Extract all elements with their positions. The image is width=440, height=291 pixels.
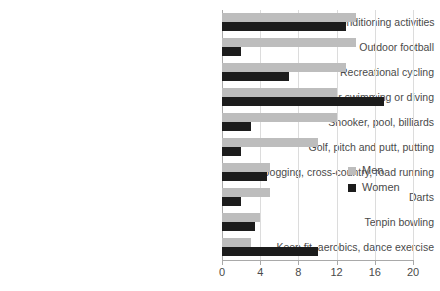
- bar-men: [222, 88, 337, 97]
- bar-row: [222, 210, 413, 235]
- bar-row: [222, 60, 413, 85]
- bar-row: [222, 235, 413, 260]
- bar-women: [222, 172, 267, 181]
- bar-men: [222, 238, 251, 247]
- bar-women: [222, 22, 346, 31]
- bar-men: [222, 63, 346, 72]
- legend-label: Women: [362, 181, 400, 194]
- plot-area: [222, 10, 413, 260]
- bar-row: [222, 110, 413, 135]
- bar-women: [222, 97, 384, 106]
- bar-row: [222, 10, 413, 35]
- bar-women: [222, 197, 241, 206]
- legend-swatch-icon: [348, 167, 356, 175]
- legend-swatch-icon: [348, 184, 356, 192]
- bar-row: [222, 135, 413, 160]
- bar-row: [222, 85, 413, 110]
- bar-chart: Health, fitness, gym or conditioning act…: [0, 0, 440, 291]
- bar-women: [222, 47, 241, 56]
- x-tick-mark-20: [413, 260, 414, 265]
- legend-label: Men: [362, 164, 383, 177]
- legend: MenWomen: [348, 163, 400, 197]
- x-tick-mark-0: [222, 260, 223, 265]
- bar-men: [222, 38, 356, 47]
- x-tick-label-0: 0: [219, 266, 225, 279]
- x-axis-line: [222, 260, 414, 261]
- x-tick-label-8: 8: [295, 266, 301, 279]
- bar-women: [222, 122, 251, 131]
- legend-entry[interactable]: Men: [348, 163, 400, 178]
- bar-row: [222, 35, 413, 60]
- bar-women: [222, 222, 255, 231]
- x-tick-label-12: 12: [330, 266, 342, 279]
- x-tick-mark-8: [298, 260, 299, 265]
- bar-men: [222, 188, 270, 197]
- bar-women: [222, 247, 318, 256]
- x-tick-label-4: 4: [257, 266, 263, 279]
- bar-women: [222, 72, 289, 81]
- legend-entry[interactable]: Women: [348, 180, 400, 195]
- x-tick-mark-12: [337, 260, 338, 265]
- bar-women: [222, 147, 241, 156]
- bar-men: [222, 138, 318, 147]
- x-tick-mark-16: [375, 260, 376, 265]
- bar-men: [222, 163, 270, 172]
- bar-men: [222, 13, 356, 22]
- bar-men: [222, 213, 260, 222]
- x-tick-label-16: 16: [369, 266, 381, 279]
- x-tick-label-20: 20: [407, 266, 419, 279]
- x-tick-mark-4: [260, 260, 261, 265]
- gridline-20: [413, 10, 414, 260]
- bar-men: [222, 113, 337, 122]
